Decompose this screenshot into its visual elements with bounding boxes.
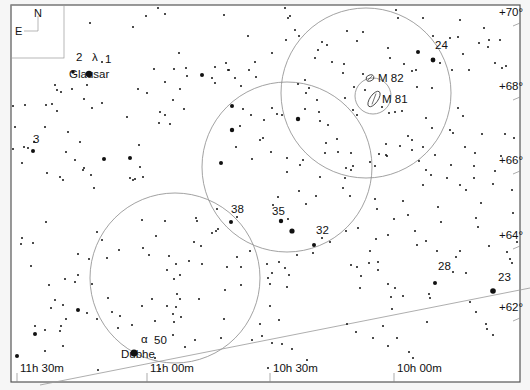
star xyxy=(86,312,88,314)
star-label: λ xyxy=(92,52,98,64)
star xyxy=(369,250,371,252)
star xyxy=(287,218,289,220)
star xyxy=(101,239,103,241)
star xyxy=(345,230,347,232)
star xyxy=(505,65,507,67)
ra-label: 10h 00m xyxy=(397,363,442,375)
star xyxy=(488,245,490,247)
star xyxy=(88,258,90,260)
star xyxy=(492,334,494,336)
star xyxy=(173,321,175,323)
star xyxy=(362,31,364,33)
star xyxy=(271,107,273,109)
star xyxy=(230,128,234,132)
star xyxy=(71,88,73,90)
star xyxy=(381,106,383,108)
star xyxy=(394,111,396,113)
star xyxy=(44,329,46,331)
star xyxy=(374,165,376,167)
star xyxy=(164,220,166,222)
star xyxy=(360,275,362,277)
star xyxy=(214,66,216,68)
star xyxy=(312,243,316,247)
star xyxy=(512,212,514,214)
star xyxy=(132,179,134,181)
star xyxy=(362,73,364,75)
star xyxy=(342,187,344,189)
star xyxy=(431,58,436,63)
star xyxy=(179,298,181,300)
star xyxy=(32,242,34,244)
star xyxy=(168,255,170,257)
star xyxy=(425,117,427,119)
star xyxy=(65,151,67,153)
star xyxy=(277,196,279,198)
star xyxy=(83,167,85,169)
star xyxy=(249,250,251,252)
star xyxy=(509,258,511,260)
dec-label: +70° xyxy=(499,7,523,19)
star xyxy=(77,253,79,255)
star xyxy=(128,156,132,160)
star-label: 1 xyxy=(105,54,111,66)
ra-label: 11h 30m xyxy=(20,363,64,375)
star xyxy=(452,271,454,273)
star xyxy=(464,146,466,148)
star xyxy=(343,63,345,65)
star xyxy=(385,154,387,156)
star xyxy=(155,235,157,237)
star xyxy=(305,203,307,205)
star xyxy=(452,132,454,134)
star xyxy=(102,157,106,161)
star xyxy=(411,139,413,141)
star-label: 23 xyxy=(498,272,511,284)
star xyxy=(473,165,475,167)
star xyxy=(146,92,148,94)
star xyxy=(271,52,273,54)
star xyxy=(299,164,301,166)
star xyxy=(407,135,409,137)
star xyxy=(50,307,52,309)
star xyxy=(119,315,121,317)
star xyxy=(236,256,238,258)
star xyxy=(391,308,393,310)
star xyxy=(393,218,395,220)
star xyxy=(259,139,261,141)
star xyxy=(118,249,120,251)
star xyxy=(248,69,250,71)
star xyxy=(372,337,374,339)
star xyxy=(344,97,346,99)
star xyxy=(284,267,286,269)
star xyxy=(336,138,338,140)
star xyxy=(224,289,226,291)
star xyxy=(107,297,109,299)
star xyxy=(291,348,293,350)
star xyxy=(134,178,136,180)
star xyxy=(504,133,506,135)
star xyxy=(250,114,252,116)
star xyxy=(196,220,198,222)
star xyxy=(319,120,321,122)
star xyxy=(356,40,358,42)
star-label: 24 xyxy=(435,40,448,52)
star xyxy=(180,316,182,318)
star xyxy=(317,49,319,51)
dso-label: M 82 xyxy=(378,73,404,85)
star xyxy=(302,159,304,161)
star xyxy=(54,84,56,86)
star xyxy=(27,147,29,149)
star xyxy=(368,262,370,264)
star xyxy=(106,257,108,259)
star xyxy=(474,152,476,154)
star xyxy=(431,87,433,89)
star xyxy=(344,177,346,179)
star xyxy=(263,119,265,121)
star xyxy=(269,283,271,285)
star xyxy=(488,39,490,41)
star xyxy=(139,166,141,168)
star xyxy=(266,263,268,265)
star xyxy=(315,195,317,197)
star xyxy=(356,266,358,268)
star xyxy=(321,237,323,239)
star xyxy=(450,164,452,166)
